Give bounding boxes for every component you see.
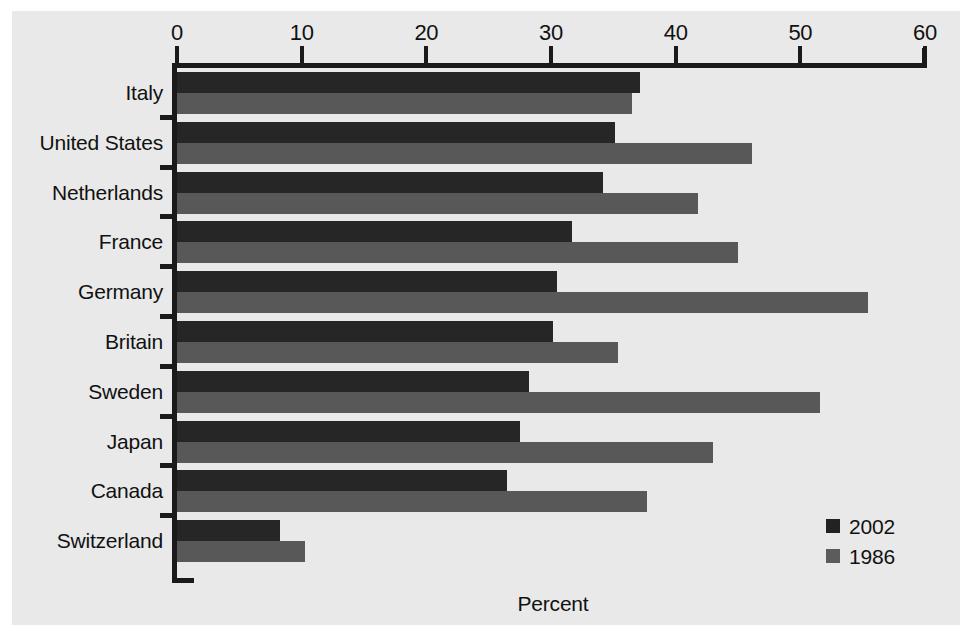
- x-axis-title: Percent: [0, 592, 972, 616]
- category-label-italy: Italy: [125, 81, 163, 105]
- bar-1986-france: [177, 242, 738, 263]
- x-tick-0: [175, 46, 179, 64]
- legend-label-2002: 2002: [849, 516, 895, 537]
- bar-1986-netherlands: [177, 193, 698, 214]
- legend-item-2002: 2002: [826, 513, 895, 539]
- x-axis-title-text: Percent: [518, 592, 589, 615]
- x-tick-label-50: 50: [788, 20, 812, 46]
- x-tick-label-0: 0: [171, 20, 183, 46]
- bar-1986-italy: [177, 93, 632, 114]
- x-tick-label-20: 20: [414, 20, 438, 46]
- legend-swatch-1986: [826, 549, 840, 563]
- bar-2002-switzerland: [177, 520, 280, 541]
- bar-1986-japan: [177, 442, 713, 463]
- x-tick-60: [923, 46, 927, 64]
- category-labels: ItalyUnited StatesNetherlandsFranceGerma…: [0, 0, 163, 637]
- x-tick-label-10: 10: [290, 20, 314, 46]
- x-tick-30: [549, 46, 553, 64]
- category-label-netherlands: Netherlands: [52, 181, 163, 205]
- category-label-britain: Britain: [105, 330, 163, 354]
- category-label-canada: Canada: [91, 479, 163, 503]
- chart-figure: 0102030405060 ItalyUnited StatesNetherla…: [0, 0, 972, 637]
- category-label-japan: Japan: [107, 430, 163, 454]
- bar-1986-britain: [177, 342, 618, 363]
- bar-2002-canada: [177, 470, 507, 491]
- x-tick-50: [798, 46, 802, 64]
- bar-2002-britain: [177, 321, 553, 342]
- category-label-switzerland: Switzerland: [57, 529, 163, 553]
- bar-2002-netherlands: [177, 172, 603, 193]
- bar-1986-germany: [177, 292, 868, 313]
- bar-2002-united-states: [177, 122, 615, 143]
- chart-legend: 2002 1986: [826, 513, 895, 573]
- legend-item-1986: 1986: [826, 543, 895, 569]
- x-tick-label-30: 30: [539, 20, 563, 46]
- bar-2002-sweden: [177, 371, 529, 392]
- x-tick-label-60: 60: [913, 20, 937, 46]
- legend-label-1986: 1986: [849, 546, 895, 567]
- bar-1986-switzerland: [177, 541, 305, 562]
- x-tick-label-40: 40: [664, 20, 688, 46]
- x-tick-40: [674, 46, 678, 64]
- bar-1986-canada: [177, 491, 647, 512]
- bar-2002-germany: [177, 271, 557, 292]
- bar-1986-sweden: [177, 392, 820, 413]
- bar-2002-italy: [177, 72, 640, 93]
- x-tick-20: [424, 46, 428, 64]
- category-label-united-states: United States: [40, 131, 163, 155]
- legend-swatch-2002: [826, 519, 840, 533]
- bar-1986-united-states: [177, 143, 752, 164]
- x-tick-10: [300, 46, 304, 64]
- category-label-sweden: Sweden: [88, 380, 163, 404]
- bar-2002-japan: [177, 421, 520, 442]
- bar-2002-france: [177, 221, 572, 242]
- y-axis-bottom-cap: [172, 578, 194, 583]
- category-label-germany: Germany: [78, 280, 163, 304]
- category-label-france: France: [99, 230, 163, 254]
